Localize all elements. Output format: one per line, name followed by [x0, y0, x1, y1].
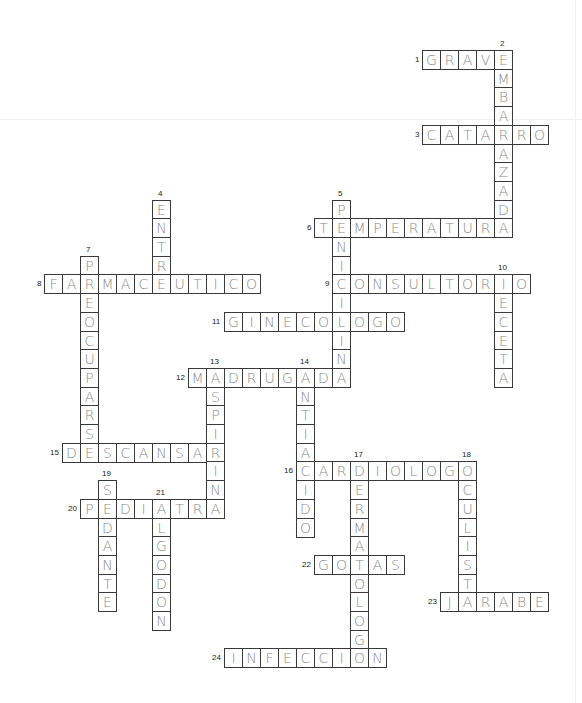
crossword-cell[interactable]: R [512, 125, 531, 145]
crossword-cell[interactable]: L [350, 592, 369, 612]
crossword-cell[interactable]: A [494, 218, 513, 238]
crossword-cell[interactable]: O [350, 312, 369, 332]
crossword-cell[interactable]: A [134, 443, 153, 463]
crossword-cell[interactable]: A [296, 443, 315, 463]
crossword-cell[interactable]: T [152, 237, 171, 257]
crossword-cell[interactable]: M [494, 69, 513, 89]
crossword-cell[interactable]: U [260, 368, 279, 388]
crossword-cell[interactable]: O [422, 461, 441, 481]
crossword-cell[interactable]: B [494, 87, 513, 107]
crossword-cell[interactable]: M [350, 218, 369, 238]
crossword-cell[interactable]: R [332, 461, 351, 481]
crossword-cell[interactable]: G [368, 312, 387, 332]
crossword-cell[interactable]: S [386, 555, 405, 575]
crossword-cell[interactable]: R [476, 218, 495, 238]
crossword-cell[interactable]: C [296, 461, 315, 481]
crossword-cell[interactable]: R [494, 125, 513, 145]
crossword-cell[interactable]: L [458, 518, 477, 538]
crossword-cell[interactable]: A [296, 368, 315, 388]
crossword-cell[interactable]: G [422, 50, 441, 70]
crossword-cell[interactable]: E [98, 592, 117, 612]
crossword-cell[interactable]: L [422, 274, 441, 294]
crossword-cell[interactable]: I [242, 312, 261, 332]
crossword-cell[interactable]: A [494, 144, 513, 164]
crossword-cell[interactable]: I [206, 461, 225, 481]
crossword-cell[interactable]: A [80, 387, 99, 407]
crossword-cell[interactable]: O [314, 312, 333, 332]
crossword-cell[interactable]: A [458, 592, 477, 612]
crossword-cell[interactable]: T [170, 499, 189, 519]
crossword-cell[interactable]: O [152, 592, 171, 612]
crossword-cell[interactable]: N [296, 387, 315, 407]
crossword-cell[interactable]: A [440, 125, 459, 145]
crossword-cell[interactable]: I [296, 424, 315, 444]
crossword-cell[interactable]: A [368, 555, 387, 575]
crossword-cell[interactable]: C [422, 125, 441, 145]
crossword-cell[interactable]: F [260, 648, 279, 668]
crossword-cell[interactable]: Z [494, 162, 513, 182]
crossword-cell[interactable]: E [98, 499, 117, 519]
crossword-cell[interactable]: R [440, 50, 459, 70]
crossword-cell[interactable]: D [224, 368, 243, 388]
crossword-cell[interactable]: E [332, 218, 351, 238]
crossword-cell[interactable]: S [206, 387, 225, 407]
crossword-cell[interactable]: E [494, 331, 513, 351]
crossword-cell[interactable]: I [332, 256, 351, 276]
crossword-cell[interactable]: P [80, 256, 99, 276]
crossword-cell[interactable]: M [350, 518, 369, 538]
crossword-cell[interactable]: G [152, 536, 171, 556]
crossword-cell[interactable]: O [350, 611, 369, 631]
crossword-cell[interactable]: N [332, 349, 351, 369]
crossword-cell[interactable]: O [242, 274, 261, 294]
crossword-cell[interactable]: A [188, 443, 207, 463]
crossword-cell[interactable]: N [152, 611, 171, 631]
crossword-cell[interactable]: N [368, 274, 387, 294]
crossword-cell[interactable]: I [206, 424, 225, 444]
crossword-cell[interactable]: A [152, 499, 171, 519]
crossword-cell[interactable]: A [476, 125, 495, 145]
crossword-cell[interactable]: O [332, 555, 351, 575]
crossword-cell[interactable]: T [458, 125, 477, 145]
crossword-cell[interactable]: O [296, 518, 315, 538]
crossword-cell[interactable]: B [512, 592, 531, 612]
crossword-cell[interactable]: G [314, 555, 333, 575]
crossword-cell[interactable]: I [332, 648, 351, 668]
crossword-cell[interactable]: E [530, 592, 549, 612]
crossword-cell[interactable]: A [314, 461, 333, 481]
crossword-cell[interactable]: O [386, 461, 405, 481]
crossword-cell[interactable]: T [98, 574, 117, 594]
crossword-cell[interactable]: I [134, 499, 153, 519]
crossword-cell[interactable]: O [458, 274, 477, 294]
crossword-cell[interactable]: R [242, 368, 261, 388]
crossword-cell[interactable]: D [62, 443, 81, 463]
crossword-cell[interactable]: P [80, 499, 99, 519]
crossword-cell[interactable]: N [152, 443, 171, 463]
crossword-cell[interactable]: N [368, 648, 387, 668]
crossword-cell[interactable]: T [188, 274, 207, 294]
crossword-cell[interactable]: C [494, 312, 513, 332]
crossword-cell[interactable]: E [350, 480, 369, 500]
crossword-cell[interactable]: C [314, 648, 333, 668]
crossword-cell[interactable]: S [98, 480, 117, 500]
crossword-cell[interactable]: I [332, 293, 351, 313]
crossword-cell[interactable]: A [206, 368, 225, 388]
crossword-cell[interactable]: A [422, 218, 441, 238]
crossword-cell[interactable]: O [80, 312, 99, 332]
crossword-cell[interactable]: O [458, 461, 477, 481]
crossword-cell[interactable]: A [494, 181, 513, 201]
crossword-cell[interactable]: R [80, 405, 99, 425]
crossword-cell[interactable]: D [350, 461, 369, 481]
crossword-cell[interactable]: T [458, 574, 477, 594]
crossword-cell[interactable]: A [62, 274, 81, 294]
crossword-cell[interactable]: G [278, 368, 297, 388]
crossword-cell[interactable]: I [224, 648, 243, 668]
crossword-cell[interactable]: C [296, 648, 315, 668]
crossword-cell[interactable]: A [332, 368, 351, 388]
crossword-cell[interactable]: E [80, 293, 99, 313]
crossword-cell[interactable]: U [458, 499, 477, 519]
crossword-cell[interactable]: N [260, 312, 279, 332]
crossword-cell[interactable]: D [152, 574, 171, 594]
crossword-cell[interactable]: J [440, 592, 459, 612]
crossword-cell[interactable]: D [494, 200, 513, 220]
crossword-cell[interactable]: C [80, 331, 99, 351]
